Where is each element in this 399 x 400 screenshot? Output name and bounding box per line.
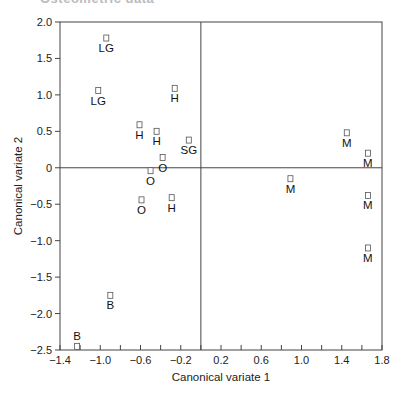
data-point: O — [137, 197, 146, 216]
y-tick-label: 2.0 — [37, 16, 52, 28]
scatter-chart: −1.4−1.0−0.6−0.20.20.61.01.41.8 2.01.51.… — [0, 0, 399, 400]
data-point: M — [286, 176, 296, 195]
square-marker-icon — [172, 85, 177, 91]
y-tick-label: 0.5 — [37, 125, 52, 137]
x-tick-label: 0.2 — [213, 354, 228, 366]
y-tick-label: −1.0 — [30, 235, 52, 247]
point-label: M — [363, 157, 373, 169]
square-marker-icon — [137, 122, 142, 128]
x-tick-label: 1.4 — [334, 354, 349, 366]
x-tick-label: −1.4 — [49, 354, 71, 366]
y-axis-title: Canonical variate 2 — [12, 137, 24, 235]
point-label: H — [152, 135, 160, 147]
point-label: M — [286, 183, 296, 195]
data-point: O — [158, 155, 167, 174]
y-axis: 2.01.51.00.50−0.5−1.0−1.5−2.0−2.5 — [30, 16, 60, 356]
x-tick-label: −0.2 — [170, 354, 192, 366]
y-tick-label: −2.0 — [30, 308, 52, 320]
square-marker-icon — [186, 137, 191, 143]
point-label: B — [73, 330, 81, 342]
point-label: M — [363, 199, 373, 211]
y-tick-label: −0.5 — [30, 198, 52, 210]
x-tick-label: 1.8 — [374, 354, 389, 366]
square-marker-icon — [154, 128, 159, 134]
data-point: B — [106, 292, 114, 311]
x-tick-label: 0.6 — [254, 354, 269, 366]
data-point: H — [168, 195, 176, 214]
point-label: B — [106, 299, 114, 311]
data-point: H — [171, 85, 179, 104]
square-marker-icon — [344, 130, 349, 136]
point-label: H — [168, 202, 176, 214]
data-points: LGLGHHHSGOOOHMMMMMBB — [73, 35, 372, 349]
y-tick-label: −2.5 — [30, 344, 52, 356]
point-label: O — [137, 204, 146, 216]
y-tick-label: 0 — [46, 162, 52, 174]
data-point: M — [342, 130, 352, 149]
point-label: SG — [180, 144, 197, 156]
data-point: O — [146, 168, 155, 187]
square-marker-icon — [75, 343, 80, 349]
data-point: SG — [180, 137, 197, 156]
data-point: H — [135, 122, 143, 141]
point-label: M — [363, 252, 373, 264]
point-label: H — [171, 92, 179, 104]
data-point: M — [363, 150, 373, 169]
point-label: M — [342, 137, 352, 149]
x-tick-label: 1.0 — [294, 354, 309, 366]
x-tick-label: −1.0 — [89, 354, 111, 366]
data-point: LG — [91, 88, 106, 107]
data-point: H — [152, 128, 160, 147]
square-marker-icon — [365, 192, 370, 198]
point-label: LG — [99, 42, 114, 54]
square-marker-icon — [96, 88, 101, 94]
x-tick-label: −0.6 — [130, 354, 152, 366]
y-tick-label: 1.0 — [37, 89, 52, 101]
point-label: H — [135, 129, 143, 141]
x-axis-title: Canonical variate 1 — [172, 371, 270, 383]
square-marker-icon — [104, 35, 109, 41]
y-tick-label: −1.5 — [30, 271, 52, 283]
point-label: LG — [91, 95, 106, 107]
data-point: M — [363, 192, 373, 211]
data-point: LG — [99, 35, 114, 54]
square-marker-icon — [169, 195, 174, 201]
square-marker-icon — [139, 197, 144, 203]
square-marker-icon — [148, 168, 153, 174]
square-marker-icon — [288, 176, 293, 182]
data-point: M — [363, 245, 373, 264]
point-label: O — [146, 175, 155, 187]
point-label: O — [158, 162, 167, 174]
square-marker-icon — [365, 245, 370, 251]
y-tick-label: 1.5 — [37, 52, 52, 64]
square-marker-icon — [365, 150, 370, 156]
square-marker-icon — [160, 155, 165, 161]
x-axis: −1.4−1.0−0.6−0.20.20.61.01.41.8 — [49, 345, 390, 366]
square-marker-icon — [108, 292, 113, 298]
